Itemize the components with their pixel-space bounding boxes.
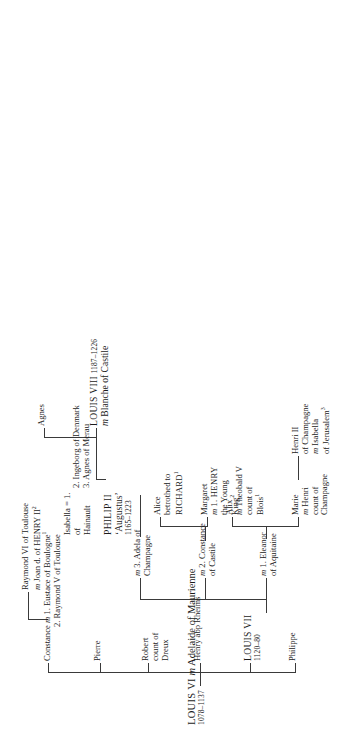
- node-margaret: Margaret m 1. HENRY the Young King2: [200, 467, 241, 516]
- connector-child-pierre: [100, 663, 101, 673]
- connector-m1: [266, 578, 267, 600]
- philip-ii-marriage-eq: =: [62, 501, 72, 506]
- philip-ii-wife-1-num: 1.: [62, 493, 72, 499]
- raymond-vi-spouse: Joan d. of HENRY II: [32, 509, 42, 581]
- node-henry-abp-rheims: Henry abp Rheims: [193, 597, 203, 661]
- node-philippe: Philippe: [288, 632, 298, 661]
- constance-spouse-1: 1. Eustace of Boulogne: [42, 534, 52, 614]
- marie-spouse: Henri: [300, 487, 310, 507]
- connector-philip2-wives-tick: [96, 479, 106, 480]
- m2-marriage-mark: m: [197, 570, 207, 576]
- henri-ii-spouse-note: 3: [320, 407, 326, 410]
- m1-label: 1. Eleanor: [258, 532, 268, 567]
- connector-louis6-spine: [48, 672, 296, 673]
- node-louis-vii: LOUIS VII 1120–80: [243, 615, 262, 662]
- m2-label: 2. Constance: [197, 523, 207, 567]
- constance-marriage-mark: m: [42, 617, 52, 623]
- alice-betrothed-to: RICHARD: [173, 474, 183, 515]
- pierre-name: Pierre: [93, 640, 103, 661]
- henry-abp-rheims-name: Henry abp Rheims: [193, 597, 203, 661]
- node-marriage-3-adela: m 3. Adela of Champagne: [133, 530, 153, 576]
- genealogy-chart: LOUIS VI m Adelaide of Maurienne 1078–11…: [0, 0, 345, 733]
- margaret-spouse-epithet: the Young: [220, 467, 230, 516]
- constance-spouse-2: 2. Raymond V of Toulouse: [53, 532, 63, 627]
- node-marriage-2-constance: m 2. Constance of Castile: [198, 523, 218, 576]
- node-alice: Alice betrothed to RICHARD1: [153, 471, 184, 515]
- alix-spouse-title: count of: [245, 466, 255, 515]
- louis-viii-dates: 1187–1226: [90, 339, 99, 374]
- node-pierre: Pierre: [93, 640, 103, 661]
- philip-ii-wife-1-place: Hainault: [83, 493, 93, 535]
- louis-viii-spouse: Blanche of Castile: [99, 346, 110, 417]
- node-raymond-vi: Raymond VI of Toulouse m Joan d. of HENR…: [21, 503, 42, 590]
- philip-ii-dates: 1165–1223: [125, 492, 133, 535]
- marie-spouse-place: Champagne: [320, 474, 330, 515]
- louis-vii-dates: 1120–80: [254, 615, 262, 662]
- louis-viii-name: LOUIS VIII: [88, 376, 99, 426]
- margaret-spouse: 1. HENRY: [209, 467, 219, 507]
- node-isabella-hainault: Isabella = 1. of Hainault: [63, 493, 92, 535]
- constance-name: Constance: [42, 625, 52, 661]
- node-louis-viii: LOUIS VIII 1187–1226 m Blanche of Castil…: [89, 339, 111, 426]
- henri-ii-spouse: Isabella: [310, 419, 320, 446]
- agnes-name: Agnes: [37, 404, 47, 426]
- connector-child-philippe: [295, 663, 296, 673]
- node-marriage-1-eleanor: m 1. Eleanor of Aquitaine: [259, 532, 279, 576]
- connector-child-robert: [148, 663, 149, 673]
- connector-louis7-stem: [266, 600, 267, 613]
- connector-alix: [232, 517, 233, 527]
- connector-marie: [298, 517, 299, 527]
- node-philip-ii: PHILIP II ‘Augustus’ 1165–1223: [103, 492, 133, 535]
- alix-spouse-place: Blois: [255, 497, 265, 515]
- node-agnes: Agnes: [37, 404, 47, 426]
- connector-m1-children-spine: [232, 526, 298, 527]
- louis-viii-marriage-mark: m: [99, 419, 110, 426]
- connector-m3: [140, 578, 141, 600]
- m1-spouse-place: of Aquitaine: [269, 532, 279, 576]
- louis-vi-name: LOUIS VI: [186, 678, 197, 725]
- m3-spouse-place: Champagne: [143, 530, 153, 576]
- m3-label: 3. Adela of: [132, 530, 142, 568]
- node-marie: Marie m Henri count of Champagne: [291, 474, 330, 515]
- connector-alice: [160, 517, 161, 527]
- margaret-spouse-note: 2: [229, 495, 235, 498]
- m3-marriage-mark: m: [132, 570, 142, 576]
- m2-spouse-place: of Castile: [208, 523, 218, 576]
- philip-ii-wife-1-name: Isabella: [62, 508, 72, 535]
- connector-louis8: [96, 428, 97, 438]
- robert-place: Dreux: [161, 633, 171, 661]
- raymond-vi-marriage-mark: m: [32, 584, 42, 590]
- henri-ii-marriage-mark: m: [310, 448, 320, 454]
- alice-status: betrothed to: [163, 471, 173, 515]
- node-henri-ii-champagne: Henri II of Champagne m Isabella of Jeru…: [291, 404, 332, 454]
- louis-vi-marriage-mark: m: [186, 668, 197, 676]
- connector-philip2-marriage-bar: [96, 438, 97, 480]
- node-robert-dreux: Robert count of Dreux: [141, 633, 170, 661]
- m1-marriage-mark: m: [258, 570, 268, 576]
- henri-ii-spouse-place: of Jerusalem: [321, 410, 331, 454]
- philippe-name: Philippe: [288, 632, 298, 661]
- margaret-spouse-title: King: [230, 498, 240, 515]
- alice-betrothed-note: 1: [173, 471, 179, 474]
- raymond-vi-name: Raymond VI of Toulouse: [21, 503, 31, 590]
- alix-spouse-note: 1: [254, 494, 260, 497]
- margaret-marriage-mark: m: [209, 509, 219, 515]
- connector-constance-to-raymond: [28, 592, 29, 620]
- connector-child-louis7: [250, 663, 251, 673]
- connector-agnes: [44, 428, 45, 438]
- connector-child-constance: [48, 663, 49, 673]
- raymond-vi-spouse-note: 2: [31, 506, 37, 509]
- marie-marriage-mark: m: [300, 509, 310, 515]
- node-constance: Constance m 1. Eustace of Boulogne1 2. R…: [41, 532, 62, 661]
